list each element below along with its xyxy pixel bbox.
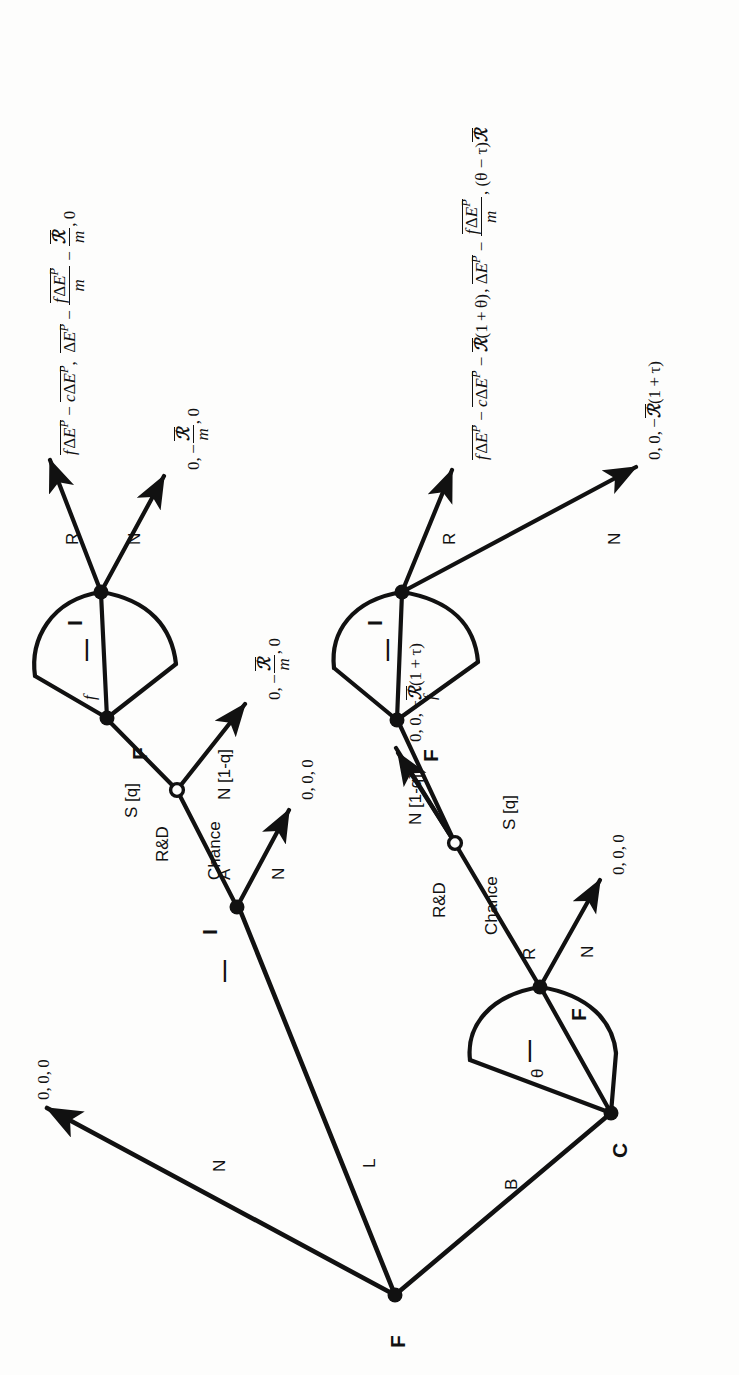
node-c-lower[interactable] <box>604 1106 619 1121</box>
info-set-marker-iupper: — <box>211 960 237 982</box>
node-label-i-top: I <box>63 620 87 626</box>
node-root[interactable] <box>388 1288 403 1303</box>
edge-label-root-N: N <box>210 1160 230 1172</box>
edge-fupper-f <box>101 593 107 718</box>
edge-label-chance-upper-word: Chance <box>205 821 225 880</box>
edge-label-itop-N: N <box>125 533 145 545</box>
edge-clower-theta <box>541 988 611 1113</box>
edge-ilower-N <box>402 467 636 592</box>
payoff-ilower-N: 0, 0, −ℛ(1 + τ) <box>645 361 665 460</box>
edge-label-itop-R: R <box>63 533 83 545</box>
node-label-f-upper: F <box>128 747 152 760</box>
edge-label-flower-N: N <box>578 946 598 958</box>
node-f-upper[interactable] <box>100 711 115 726</box>
edge-label-chance-lower-rd: R&D <box>430 882 450 918</box>
edge-label-flower-R: R <box>520 948 540 960</box>
edge-label-chance-lower-word: Chance <box>482 876 502 935</box>
edge-label-chance-upper-rd: R&D <box>153 826 173 862</box>
node-label-i-upper: I <box>198 929 222 935</box>
payoff-itop-N: 0, −ℛm, 0 <box>174 408 211 470</box>
info-set-arc-lower-close-2 <box>611 1053 616 1113</box>
payoff-itop-R: f ΔEP − cΔEP, ΔEP − f ΔEPm − ℛm, 0 <box>50 211 87 455</box>
edge-label-chance-lower-N: N [1-q] <box>406 774 426 825</box>
info-set-marker-lower: — <box>516 1040 542 1062</box>
node-chance-upper[interactable] <box>171 784 184 797</box>
edge-ilower-R <box>402 470 452 592</box>
payoff-chance-lower-N: 0, 0, −ℛ(1 + τ) <box>406 643 426 742</box>
edge-label-root-L: L <box>360 1159 380 1168</box>
edge-label-c-theta: θ <box>528 1069 548 1078</box>
figure-canvas: F I F I C F F I — — — — N L B A N R&D Ch… <box>0 0 739 1375</box>
info-set-arc-upper-2 <box>101 592 176 664</box>
node-label-i-lower: I <box>363 620 387 626</box>
info-set-arc-upper <box>34 592 101 676</box>
payoff-ilower-R: f ΔEP − cΔEP − ℛ(1 + θ) , ΔEP − f ΔEPm ,… <box>462 128 499 460</box>
payoff-chance-upper-N: 0, −ℛm, 0 <box>255 638 292 700</box>
payoff-root-N: 0, 0, 0 <box>34 1059 54 1100</box>
edge-label-ilower-R: R <box>440 533 460 545</box>
edge-label-root-B: B <box>502 1179 522 1190</box>
edge-flower-N <box>540 880 600 987</box>
node-label-root: F <box>386 1335 410 1348</box>
node-label-c-lower: C <box>608 1143 632 1158</box>
node-chance-lower[interactable] <box>449 837 462 850</box>
edge-label-chance-upper-S: S [q] <box>122 783 142 818</box>
info-set-marker-lower-top: — <box>374 639 400 661</box>
node-i-top[interactable] <box>94 585 109 600</box>
edge-itop-R <box>50 460 101 592</box>
node-f-lower[interactable] <box>533 980 548 995</box>
info-set-marker-upper: — <box>73 639 99 661</box>
info-set-arc-top-lower-close <box>334 668 397 720</box>
game-tree-svg <box>0 0 739 1375</box>
node-i-upper[interactable] <box>230 900 245 915</box>
edge-label-ilower-N: N <box>605 533 625 545</box>
node-f-lower2[interactable] <box>390 713 405 728</box>
node-label-f-lower2: F <box>419 749 443 762</box>
edge-root-N <box>47 1108 395 1295</box>
edge-root-L <box>238 905 395 1295</box>
payoff-iupper-N: 0, 0, 0 <box>298 759 318 800</box>
edge-label-iupper-N: N <box>269 868 289 880</box>
edge-label-fupper-f: f <box>80 695 100 700</box>
edge-label-chance-lower-S: S [q] <box>500 795 520 830</box>
node-label-f-lower: F <box>567 1008 591 1021</box>
edge-iupper-N <box>237 810 289 907</box>
node-i-lower[interactable] <box>395 585 410 600</box>
payoff-flower-N: 0, 0, 0 <box>609 834 629 875</box>
edge-label-chance-upper-N: N [1-q] <box>215 749 235 800</box>
info-set-arc-upper-close-2 <box>107 664 176 718</box>
edge-root-B <box>395 1113 611 1295</box>
